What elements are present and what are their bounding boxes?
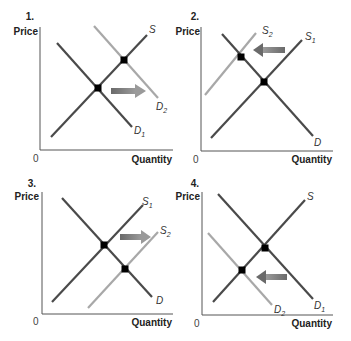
panel-2-label-d: D xyxy=(314,137,321,148)
panel-4-number: 4. xyxy=(191,178,200,189)
panel-3-y-label: Price xyxy=(15,191,40,202)
panel-3-equilibrium-point-1 xyxy=(101,242,108,249)
panel-1-label-s: S xyxy=(149,24,156,35)
panel-1-number: 1. xyxy=(26,11,35,22)
panel-1-equilibrium-point-2 xyxy=(121,57,128,64)
arrow-right-icon xyxy=(111,84,146,98)
panel-4-supply-curve xyxy=(213,200,305,302)
panel-2: 2. Price 0 Quantity S2 S1 D xyxy=(176,11,333,165)
panel-4-y-label: Price xyxy=(176,191,201,202)
arrow-right-icon xyxy=(120,230,151,244)
panel-1-origin: 0 xyxy=(33,153,39,164)
panel-2-x-label: Quantity xyxy=(291,154,332,165)
panel-2-label-s1: S1 xyxy=(305,31,316,44)
panel-1-label-d2: D2 xyxy=(156,101,167,114)
panel-2-equilibrium-point-1 xyxy=(261,79,268,86)
panel-3-label-s1: S1 xyxy=(142,196,153,209)
panel-2-y-label: Price xyxy=(176,26,201,37)
panel-1-equilibrium-point-1 xyxy=(95,85,102,92)
panel-3-label-d: D xyxy=(156,295,163,306)
panel-4-x-label: Quantity xyxy=(291,318,332,329)
panel-2-origin: 0 xyxy=(193,154,199,165)
panel-4-equilibrium-point-2 xyxy=(239,267,246,274)
panel-4-label-d1: D1 xyxy=(314,300,325,313)
arrow-left-icon xyxy=(253,43,285,57)
panel-3-origin: 0 xyxy=(33,316,39,327)
panel-4-label-s: S xyxy=(307,191,314,202)
panel-3-label-s2: S2 xyxy=(160,225,171,238)
panel-3-equilibrium-point-2 xyxy=(122,266,129,273)
panel-4: 4. Price 0 Quantity S D2 D1 xyxy=(176,178,333,329)
panel-3-number: 3. xyxy=(28,178,37,189)
panel-1: 1. Price 0 Quantity S D2 D1 xyxy=(14,11,173,165)
panel-4-origin: 0 xyxy=(194,318,200,329)
panel-1-label-d1: D1 xyxy=(134,125,145,138)
arrow-left-icon xyxy=(256,270,287,284)
four-panel-supply-demand-diagram: 1. Price 0 Quantity S D2 D1 2. Price 0 Q… xyxy=(0,0,351,341)
panel-1-x-label: Quantity xyxy=(131,154,172,165)
panel-2-label-s2: S2 xyxy=(262,25,273,38)
panel-2-equilibrium-point-2 xyxy=(238,54,245,61)
panel-1-y-label: Price xyxy=(14,26,39,37)
panel-3-x-label: Quantity xyxy=(131,317,172,328)
panel-3-supply-curve-s1 xyxy=(52,205,143,302)
panel-2-number: 2. xyxy=(191,11,200,22)
panel-4-equilibrium-point-1 xyxy=(262,245,269,252)
panel-2-supply-curve-s1 xyxy=(211,40,302,138)
panel-3: 3. Price 0 Quantity S1 S2 D xyxy=(15,178,173,328)
